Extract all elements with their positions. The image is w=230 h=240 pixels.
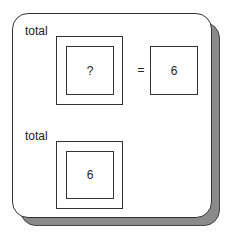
- row1-inner-box: ?: [66, 46, 114, 95]
- row1-label: total: [25, 24, 48, 38]
- row2-inner-box: 6: [66, 151, 114, 199]
- equals-sign: =: [135, 62, 147, 78]
- result-box: 6: [150, 46, 198, 95]
- row2-label: total: [25, 129, 48, 143]
